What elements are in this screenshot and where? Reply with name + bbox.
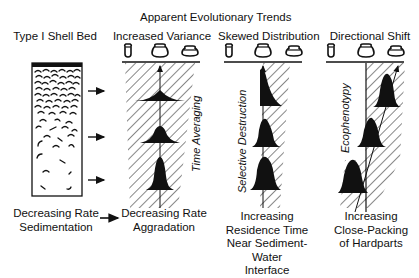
round-shell-icon: [152, 44, 168, 57]
panel-caption-skewed-distribution: Increasing Residence Time Near Sediment-…: [212, 210, 322, 278]
caption-line: of Hardparts: [328, 237, 414, 251]
process-label-selective-destruction: Selective Destruction: [236, 90, 248, 193]
caption-line: Aggradation: [116, 221, 212, 235]
round-shell-icon: [358, 44, 374, 57]
wide-shell-icon: [182, 46, 198, 56]
wide-shell-icon: [388, 46, 404, 56]
shell-bed-column: [32, 63, 82, 196]
caption-line: Near Sediment-Water: [212, 237, 322, 264]
narrow-shell-icon: [226, 44, 233, 57]
panel-caption-increased-variance: Decreasing Rate Aggradation: [116, 207, 212, 234]
narrow-shell-icon: [328, 44, 335, 57]
caption-line: Interface: [212, 264, 322, 278]
caption-line: Residence Time: [212, 224, 322, 238]
caption-line: Increasing: [328, 210, 414, 224]
process-label-ecophenotypy: Ecophenotypy: [339, 83, 351, 153]
caption-line: Sedimentation: [0, 221, 112, 235]
caption-line: Decreasing Rate: [116, 207, 212, 221]
shell-bed-caption: Decreasing Rate Sedimentation: [0, 207, 112, 234]
process-label-time-averaging: Time Averaging: [190, 96, 202, 172]
panel-caption-directional-shift: Increasing Close-Packing of Hardparts: [328, 210, 414, 251]
round-shell-icon: [255, 44, 271, 57]
panel-increased-variance: [122, 44, 200, 208]
caption-line: Close-Packing: [328, 224, 414, 238]
panel-directional-shift: [326, 44, 405, 212]
wide-shell-icon: [286, 46, 302, 56]
caption-line: Increasing: [212, 210, 322, 224]
narrow-shell-icon: [125, 44, 132, 57]
caption-line: Decreasing Rate: [0, 207, 112, 221]
